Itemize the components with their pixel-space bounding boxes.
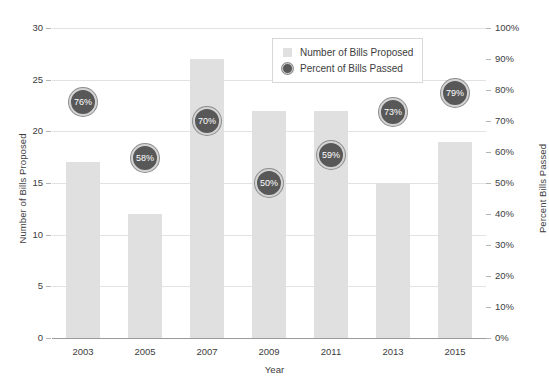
percent-bubble: 73% bbox=[379, 98, 407, 126]
y-tick-right bbox=[486, 245, 491, 246]
y-axis-right-tick-label: 0% bbox=[495, 333, 509, 343]
y-axis-right-tick-label: 40% bbox=[495, 209, 514, 219]
y-axis-right-tick-label: 50% bbox=[495, 178, 514, 188]
y-axis-left-tick-label: 15 bbox=[32, 178, 43, 188]
percent-bubble: 50% bbox=[255, 169, 283, 197]
y-axis-left-tick-label: 25 bbox=[32, 75, 43, 85]
y-tick-right bbox=[486, 90, 491, 91]
y-axis-right-tick-label: 100% bbox=[495, 23, 519, 33]
axis-baseline bbox=[52, 338, 486, 339]
y-axis-right-tick-label: 80% bbox=[495, 85, 514, 95]
x-axis-tick-label: 2009 bbox=[239, 346, 299, 357]
x-axis-tick-label: 2015 bbox=[425, 346, 485, 357]
y-tick-right bbox=[486, 121, 491, 122]
y-axis-right-tick-label: 90% bbox=[495, 54, 514, 64]
y-axis-left-tick-label: 5 bbox=[38, 281, 43, 291]
y-axis-left-tick-label: 0 bbox=[38, 333, 43, 343]
x-axis-title: Year bbox=[0, 364, 549, 375]
bar bbox=[128, 214, 162, 338]
bar bbox=[376, 183, 410, 338]
bar bbox=[252, 111, 286, 338]
y-tick-left bbox=[46, 183, 51, 184]
y-tick-left bbox=[46, 80, 51, 81]
legend-label-bills-proposed: Number of Bills Proposed bbox=[300, 47, 413, 58]
chart-legend: Number of Bills Proposed Percent of Bill… bbox=[272, 38, 423, 83]
y-tick-left bbox=[46, 235, 51, 236]
x-axis-tick-label: 2005 bbox=[115, 346, 175, 357]
bar-swatch-icon bbox=[283, 48, 292, 57]
legend-item-bills-proposed: Number of Bills Proposed bbox=[280, 44, 413, 60]
bar bbox=[66, 162, 100, 338]
y-tick-right bbox=[486, 28, 491, 29]
y-tick-left bbox=[46, 286, 51, 287]
legend-item-percent-passed: Percent of Bills Passed bbox=[280, 60, 413, 76]
bar bbox=[438, 142, 472, 338]
y-axis-right-tick-label: 30% bbox=[495, 240, 514, 250]
y-tick-left bbox=[46, 131, 51, 132]
x-axis-tick-label: 2007 bbox=[177, 346, 237, 357]
legend-label-percent-passed: Percent of Bills Passed bbox=[300, 63, 403, 74]
chart-container: Number of Bills Proposed Percent Bills P… bbox=[0, 0, 549, 386]
bubble-swatch-icon bbox=[282, 63, 293, 74]
y-tick-right bbox=[486, 152, 491, 153]
percent-bubble: 59% bbox=[317, 141, 345, 169]
y-tick-right bbox=[486, 276, 491, 277]
y-axis-right-title: Percent Bills Passed bbox=[537, 104, 548, 274]
bar bbox=[190, 59, 224, 338]
y-tick-left bbox=[46, 28, 51, 29]
y-axis-right-tick-label: 20% bbox=[495, 271, 514, 281]
percent-bubble: 76% bbox=[69, 88, 97, 116]
x-axis-tick-label: 2003 bbox=[53, 346, 113, 357]
y-tick-right bbox=[486, 59, 491, 60]
y-axis-left-tick-label: 10 bbox=[32, 230, 43, 240]
y-tick-left bbox=[46, 338, 51, 339]
y-tick-right bbox=[486, 338, 491, 339]
y-axis-right-tick-label: 70% bbox=[495, 116, 514, 126]
y-axis-right-tick-label: 60% bbox=[495, 147, 514, 157]
y-tick-right bbox=[486, 307, 491, 308]
y-axis-left-tick-label: 30 bbox=[32, 23, 43, 33]
y-tick-right bbox=[486, 183, 491, 184]
percent-bubble: 79% bbox=[441, 79, 469, 107]
y-axis-left-title: Number of Bills Proposed bbox=[17, 104, 28, 274]
y-axis-right-tick-label: 10% bbox=[495, 302, 514, 312]
percent-bubble: 70% bbox=[193, 107, 221, 135]
x-axis-tick-label: 2011 bbox=[301, 346, 361, 357]
x-axis-tick-label: 2013 bbox=[363, 346, 423, 357]
gridline bbox=[52, 28, 486, 29]
y-axis-left-tick-label: 20 bbox=[32, 126, 43, 136]
percent-bubble: 58% bbox=[131, 144, 159, 172]
y-tick-right bbox=[486, 214, 491, 215]
